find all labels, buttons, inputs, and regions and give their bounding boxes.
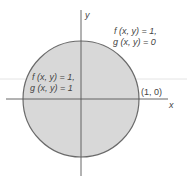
unit-disk-diagram: y x f (x, y) = 1, g (x, y) = 0 f (x, y) …: [0, 0, 187, 187]
point-label: (1, 0): [141, 87, 162, 97]
y-axis-label: y: [84, 10, 90, 20]
inside-label-line2: g (x, y) = 1: [30, 83, 73, 93]
outside-label-line1: f (x, y) = 1,: [114, 26, 157, 36]
outside-label-line2: g (x, y) = 0: [113, 37, 156, 47]
inside-label-line1: f (x, y) = 1,: [32, 72, 75, 82]
x-axis-label: x: [168, 100, 174, 110]
